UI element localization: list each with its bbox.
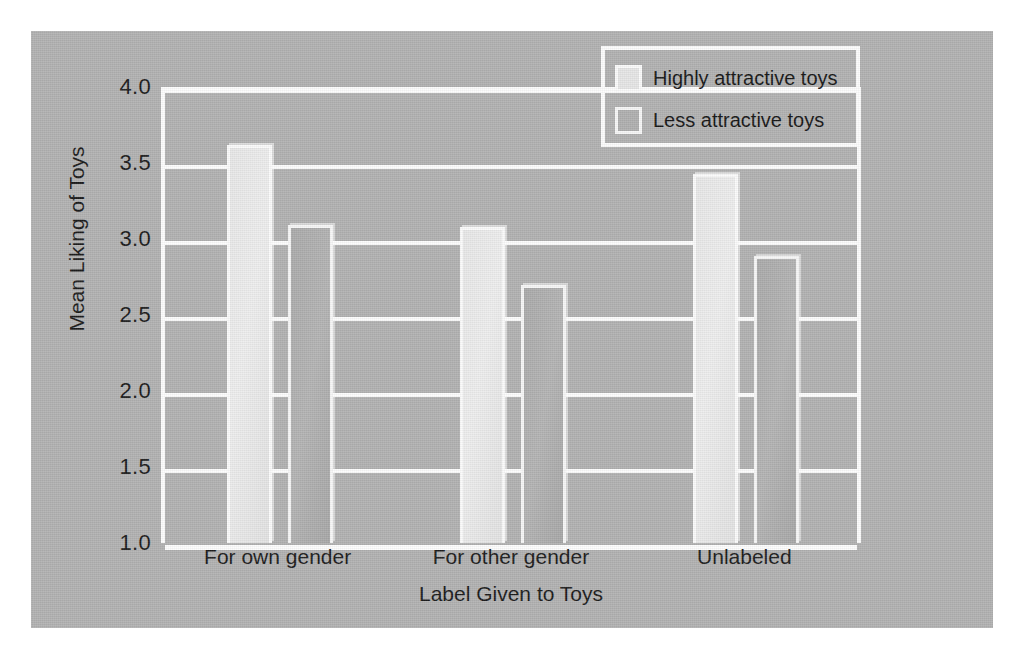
x-axis-title: Label Given to Toys: [161, 582, 861, 606]
chart-legend: Highly attractive toysLess attractive to…: [601, 46, 860, 147]
y-axis-tick-label: 2.5: [120, 302, 151, 328]
y-axis-tick-label: 1.0: [120, 530, 151, 556]
bar-for-other-gender-less-attractive-toys: [521, 285, 566, 543]
bar-unlabeled-less-attractive-toys: [754, 256, 799, 543]
legend-swatch-icon: [615, 107, 642, 134]
y-axis-tick-label: 3.0: [120, 226, 151, 252]
bar-for-other-gender-highly-attractive-toys: [460, 227, 505, 543]
x-axis-category-label: For own gender: [204, 545, 351, 569]
bar-unlabeled-highly-attractive-toys: [693, 174, 738, 543]
x-axis-category-label: For other gender: [433, 545, 589, 569]
figure-canvas: 1.01.52.02.53.03.54.0 Mean Liking of Toy…: [0, 0, 1026, 657]
y-axis-tick-label: 2.0: [120, 378, 151, 404]
x-axis-category-labels: For own genderFor other genderUnlabeled: [161, 545, 861, 579]
legend-item-label: Less attractive toys: [653, 109, 824, 132]
y-axis-tick-label: 3.5: [120, 150, 151, 176]
plot-area: [161, 87, 861, 543]
y-axis-tick-label: 1.5: [120, 454, 151, 480]
legend-item: Highly attractive toys: [615, 57, 846, 99]
y-axis-tick-label: 4.0: [120, 74, 151, 100]
legend-swatch-icon: [615, 65, 642, 92]
chart-panel: 1.01.52.02.53.03.54.0 Mean Liking of Toy…: [31, 31, 993, 628]
bar-for-own-gender-less-attractive-toys: [288, 225, 333, 543]
legend-item-label: Highly attractive toys: [653, 67, 838, 90]
y-axis-title: Mean Liking of Toys: [65, 109, 89, 369]
bar-for-own-gender-highly-attractive-toys: [227, 145, 272, 543]
legend-item: Less attractive toys: [615, 99, 846, 141]
x-axis-category-label: Unlabeled: [697, 545, 792, 569]
